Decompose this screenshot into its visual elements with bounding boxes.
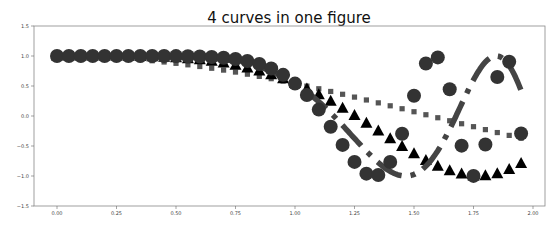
circle-marker	[359, 167, 373, 181]
circle-marker	[276, 68, 290, 82]
y-axis: 1.51.00.50.0−0.5−1.0−1.5	[17, 23, 34, 209]
square-marker	[495, 130, 500, 135]
x-tick-label: 2.00	[527, 210, 538, 216]
square-marker	[507, 133, 512, 138]
circle-marker	[169, 49, 183, 63]
circle-marker	[478, 138, 492, 152]
circle-marker	[514, 127, 528, 141]
y-tick-label: 0.0	[21, 113, 29, 119]
circle-marker	[336, 138, 350, 152]
circle-marker	[371, 168, 385, 182]
circle-marker	[193, 49, 207, 63]
circle-marker	[431, 50, 445, 64]
circle-marker	[240, 54, 254, 68]
circle-marker	[181, 49, 195, 63]
square-marker	[209, 66, 214, 71]
square-marker	[400, 106, 405, 111]
square-marker	[328, 89, 333, 94]
x-tick-label: 1.25	[349, 210, 360, 216]
x-tick-label: 0.75	[230, 210, 241, 216]
circle-marker	[324, 120, 338, 134]
circle-marker	[157, 49, 171, 63]
circle-marker	[407, 89, 421, 103]
circle-marker	[467, 169, 481, 183]
circle-marker	[312, 103, 326, 117]
x-tick-label: 1.00	[289, 210, 300, 216]
y-tick-label: −0.5	[17, 143, 29, 149]
square-marker	[459, 121, 464, 126]
circle-marker	[252, 57, 266, 71]
circle-marker	[205, 50, 219, 64]
square-marker	[197, 64, 202, 69]
square-marker	[483, 127, 488, 132]
chart-title: 4 curves in one figure	[207, 9, 371, 27]
square-marker	[352, 95, 357, 100]
x-tick-label: 1.75	[468, 210, 479, 216]
circle-marker	[300, 88, 314, 102]
y-tick-label: −1.0	[17, 173, 29, 179]
y-tick-label: −1.5	[17, 203, 29, 209]
square-marker	[233, 69, 238, 74]
y-tick-label: 1.5	[21, 23, 29, 29]
circle-marker	[490, 70, 504, 84]
x-axis: 0.000.250.500.751.001.251.501.752.00	[51, 206, 538, 216]
x-tick-label: 0.00	[51, 210, 62, 216]
y-tick-label: 1.0	[21, 53, 29, 59]
circle-marker	[121, 49, 135, 63]
circle-marker	[395, 127, 409, 141]
square-marker	[364, 97, 369, 102]
square-marker	[340, 92, 345, 97]
square-marker	[411, 109, 416, 114]
square-marker	[388, 103, 393, 108]
x-tick-label: 0.25	[111, 210, 122, 216]
circle-marker	[145, 49, 159, 63]
square-marker	[471, 124, 476, 129]
y-tick-label: 0.5	[21, 83, 29, 89]
circle-marker	[348, 155, 362, 169]
square-marker	[376, 100, 381, 105]
circle-marker	[419, 57, 433, 71]
x-tick-label: 1.50	[408, 210, 419, 216]
circle-marker	[229, 52, 243, 66]
circle-marker	[264, 61, 278, 75]
x-tick-label: 0.50	[170, 210, 181, 216]
circle-marker	[288, 77, 302, 91]
circle-marker	[217, 51, 231, 65]
square-marker	[221, 68, 226, 73]
square-marker	[423, 112, 428, 117]
chart: 4 curves in one figure 1.51.00.50.0−0.5−…	[0, 0, 560, 232]
circle-marker	[443, 82, 457, 96]
circle-marker	[383, 155, 397, 169]
square-marker	[435, 115, 440, 120]
circle-marker	[502, 55, 516, 69]
circle-marker	[455, 139, 469, 153]
